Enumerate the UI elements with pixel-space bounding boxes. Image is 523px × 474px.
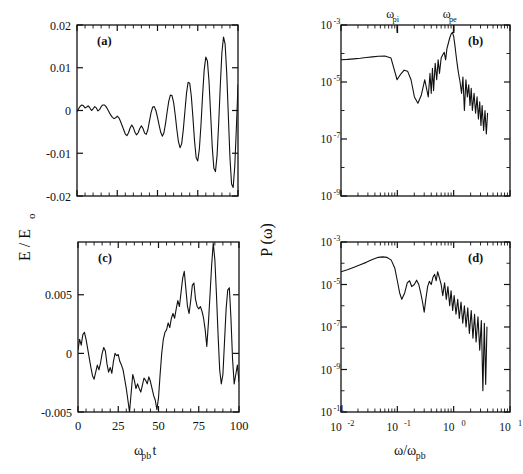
panel-c-xtick-label: 100 — [230, 419, 249, 433]
panel-a-frame — [77, 25, 238, 196]
panel-b-ytick-label: 10-7 — [321, 131, 341, 145]
panel-d-ytick-label-exp: -9 — [334, 362, 341, 371]
panel-b-data-curve — [341, 32, 488, 134]
figure-svg: -0.02-0.0100.010.02(a)10-310-510-710-9(b… — [0, 0, 523, 474]
panel-b-ytick-label-exp: -3 — [334, 17, 341, 26]
panel-c-ytick-label: 0.005 — [45, 288, 72, 302]
panel-c-data-curve — [78, 243, 239, 412]
panel-c-ytick-label: -0.005 — [41, 406, 72, 420]
panel-d-xtick-label-base: 10 — [330, 421, 342, 433]
panel-b-ytick-label: 10-9 — [321, 188, 341, 202]
ylabel-left: E / Eo — [16, 213, 37, 261]
ylabel-right-main: P (ω) — [258, 223, 276, 257]
panel-b-markers: ωpiωpe — [386, 7, 457, 33]
panel-c-label: (c) — [98, 251, 112, 265]
ylabel-left-main: E / E — [16, 229, 33, 261]
panel-b-ytick-label: 10-3 — [321, 17, 341, 31]
panel-d-ytick-label-base: 10 — [321, 279, 333, 291]
panel-d-xtick-label-exp: 0 — [462, 419, 466, 428]
xlabel-left-tail: t — [152, 443, 156, 458]
panel-b-ytick-label-base: 10 — [321, 190, 333, 202]
marker-label-omega_pe-sub: pe — [449, 15, 457, 24]
panel-d-xtick-label-base: 10 — [387, 421, 399, 433]
panel-b-label: (b) — [468, 34, 483, 48]
panel-d-ytick-label: 10-7 — [321, 319, 341, 333]
panel-c-ytick-label: 0 — [66, 347, 72, 361]
panel-d-data-curve — [341, 257, 487, 391]
panel-b-ytick-label-exp: -5 — [334, 74, 341, 83]
marker-label-omega_pe: ωpe — [443, 7, 457, 24]
panel-a-ytick-label: 0.01 — [50, 61, 71, 75]
panel-c-xtick-label: 0 — [75, 419, 81, 433]
xlabel-right: ω/ωpb — [394, 443, 426, 461]
panel-b-ytick-label-exp: -9 — [334, 188, 341, 197]
panel-d-ytick-label: 10-9 — [321, 362, 341, 376]
panel-b-ytick-label-base: 10 — [321, 133, 333, 145]
panel-d-ytick-label: 10-5 — [321, 277, 341, 291]
panel-d-ytick-label-exp: -11 — [334, 404, 345, 413]
panel-a-ytick-label: 0.02 — [50, 19, 71, 33]
xlabel-right-main: ω/ω — [394, 443, 416, 458]
xlabel-left-sub: pb — [141, 450, 151, 461]
panel-b-ytick-label-exp: -7 — [334, 131, 341, 140]
panel-a-ytick-label: -0.01 — [46, 147, 71, 161]
panel-d-xtick-label-exp: -1 — [404, 419, 411, 428]
panel-c: -0.00500.0050255075100(c) — [41, 242, 248, 433]
figure-container: -0.02-0.0100.010.02(a)10-310-510-710-9(b… — [0, 0, 523, 474]
panel-a-data-curve — [77, 37, 238, 187]
panel-d-ytick-label: 10-11 — [321, 404, 345, 418]
panel-b-ytick-label-base: 10 — [321, 76, 333, 88]
panel-d-ytick-label-exp: -5 — [334, 277, 341, 286]
panel-b: 10-310-510-710-9(b) — [321, 17, 511, 202]
panel-c-xtick-label: 25 — [112, 419, 125, 433]
panel-d-xtick-label: 10-2 — [330, 419, 354, 433]
xlabel-left: ωpbt — [134, 443, 156, 461]
ylabel-right: P (ω) — [258, 223, 276, 257]
panel-d-xtick-label: 101 — [499, 419, 522, 433]
panel-d-ytick-label-base: 10 — [321, 406, 333, 418]
panel-d-xtick-label-exp: 1 — [518, 419, 522, 428]
panel-d-ytick-label-base: 10 — [321, 364, 333, 376]
panel-c-xtick-label: 75 — [193, 419, 206, 433]
panel-b-ytick-label: 10-5 — [321, 74, 341, 88]
panel-d-ytick-label-base: 10 — [321, 236, 333, 248]
panel-a: -0.02-0.0100.010.02(a) — [46, 19, 238, 204]
xlabel-right-sub: pb — [416, 450, 426, 461]
panel-a-label: (a) — [97, 34, 112, 48]
panel-d-ytick-label: 10-3 — [321, 234, 341, 248]
panel-a-ytick-label: 0 — [65, 104, 71, 118]
panel-d-label: (d) — [468, 251, 483, 265]
panel-a-ytick-label: -0.02 — [46, 190, 71, 204]
panel-b-ytick-label-base: 10 — [321, 19, 333, 31]
panel-d-ytick-label-exp: -7 — [334, 319, 341, 328]
panel-d-xtick-label-base: 10 — [499, 421, 511, 433]
panel-d-xtick-label: 10-1 — [387, 419, 411, 433]
panel-d-xtick-label-exp: -2 — [348, 419, 355, 428]
marker-label-omega_pi-sub: pi — [393, 15, 400, 24]
panel-c-xtick-label: 50 — [152, 419, 165, 433]
panel-d-ytick-label-base: 10 — [321, 321, 333, 333]
panel-d-ytick-label-exp: -3 — [334, 234, 341, 243]
ylabel-left-sub: o — [25, 213, 37, 219]
marker-label-omega_pi: ωpi — [386, 7, 399, 24]
panel-d-xtick-label: 100 — [443, 419, 466, 433]
panel-d: 10-310-510-710-910-1110-210-1100101(d) — [321, 234, 523, 433]
panel-d-xtick-label-base: 10 — [443, 421, 455, 433]
